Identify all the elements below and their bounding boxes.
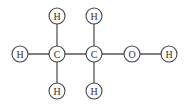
atom-label: C: [54, 49, 61, 60]
atom-label: H: [165, 49, 172, 60]
atom-h6: H: [86, 83, 102, 99]
atom-label: C: [91, 49, 98, 60]
atom-h1: H: [12, 46, 28, 62]
atom-h2: H: [161, 46, 177, 62]
atom-h3: H: [49, 8, 65, 24]
atom-label: H: [90, 86, 97, 97]
atom-c2: C: [86, 46, 102, 62]
atom-h5: H: [49, 83, 65, 99]
atom-label: H: [90, 11, 97, 22]
atom-c1: C: [49, 46, 65, 62]
atom-h4: H: [86, 8, 102, 24]
atom-label: O: [128, 49, 135, 60]
atom-label: H: [16, 49, 23, 60]
ethanol-structural-diagram: HCCOHHHHH: [0, 0, 188, 111]
atom-label: H: [53, 86, 60, 97]
atom-o1: O: [124, 46, 140, 62]
atom-label: H: [53, 11, 60, 22]
